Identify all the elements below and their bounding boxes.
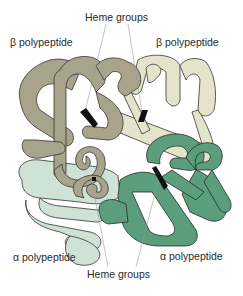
alpha-polypeptide-left-label: α polypeptide <box>13 251 76 263</box>
heme-groups-bottom-label: Heme groups <box>87 268 150 280</box>
beta-polypeptide-left-label: β polypeptide <box>10 36 73 48</box>
beta-polypeptide-right-label: β polypeptide <box>156 36 219 48</box>
heme-beta-left <box>80 108 98 128</box>
heme-alpha-left <box>92 177 96 181</box>
heme-groups-top-label: Heme groups <box>85 11 148 23</box>
alpha-polypeptide-right-label: α polypeptide <box>160 250 223 262</box>
